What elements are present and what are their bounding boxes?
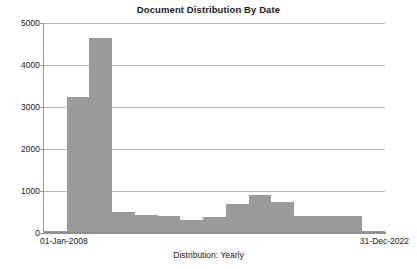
y-axis-tick-label: 4000: [4, 61, 40, 70]
y-axis-tick-label: 1000: [4, 187, 40, 196]
bar: [67, 97, 90, 234]
bar: [135, 215, 158, 233]
bar-series: [44, 23, 385, 233]
y-axis-tick-label: 3000: [4, 103, 40, 112]
y-axis-tick-label: 5000: [4, 19, 40, 28]
bar: [294, 216, 317, 233]
y-axis-tick-label: 2000: [4, 145, 40, 154]
x-axis-caption: Distribution: Yearly: [0, 250, 417, 260]
bar: [226, 204, 249, 233]
plot-area: [44, 23, 385, 233]
bar: [203, 217, 226, 233]
chart-title: Document Distribution By Date: [0, 4, 417, 15]
bar: [89, 38, 112, 233]
bar: [112, 212, 135, 233]
x-axis-line: [44, 232, 386, 234]
x-axis-end-label: 31-Dec-2022: [360, 236, 409, 246]
x-axis-start-label: 01-Jan-2008: [40, 236, 88, 246]
bar: [340, 216, 363, 233]
y-axis-tick-labels: 010002000300040005000: [0, 0, 40, 269]
chart-container: Document Distribution By Date 0100020003…: [0, 0, 417, 269]
bar: [180, 220, 203, 233]
bar: [271, 202, 294, 233]
bar: [249, 195, 272, 233]
y-axis-tick-label: 0: [4, 229, 40, 238]
bar: [317, 216, 340, 233]
bar: [158, 216, 181, 233]
